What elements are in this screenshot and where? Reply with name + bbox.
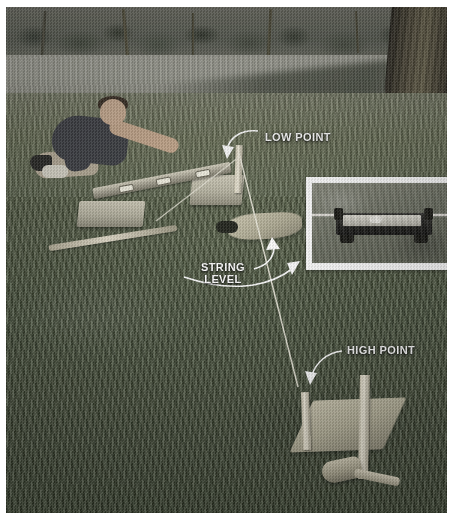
inset-photo-frame [306, 177, 447, 270]
string-level-hook-right [424, 208, 433, 220]
label-low-point: LOW POINT [265, 131, 331, 143]
inset-mason-string [312, 214, 447, 216]
dark-object [216, 221, 238, 233]
kneeling-person [34, 99, 164, 185]
level-vial [118, 184, 134, 194]
inset-photograph [312, 183, 447, 263]
string-level-bubble [370, 216, 382, 223]
person-sock [42, 165, 68, 178]
string-level-hook-left [334, 208, 343, 220]
string-level-body [336, 213, 432, 235]
label-high-point: HIGH POINT [347, 344, 415, 356]
level-vial [195, 169, 211, 179]
string-level-foot-right [414, 235, 428, 243]
main-photograph: LOW POINT STRING LEVEL HIGH POINT [6, 7, 447, 513]
string-level-vial [342, 214, 422, 227]
concrete-block-left [77, 201, 146, 227]
label-string-level: STRING LEVEL [192, 261, 254, 285]
string-level-foot-left [340, 235, 354, 243]
level-vial [156, 176, 172, 186]
photo-page: LOW POINT STRING LEVEL HIGH POINT [0, 0, 459, 531]
background-trunk [192, 13, 194, 57]
person-head [100, 99, 126, 125]
